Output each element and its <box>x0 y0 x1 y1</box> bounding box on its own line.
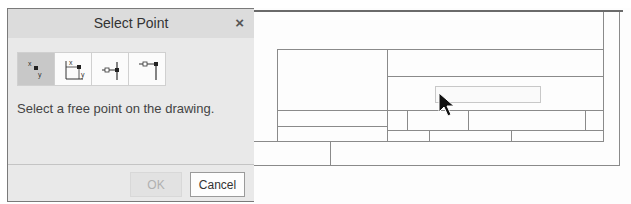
titleblock-row4 <box>387 130 604 131</box>
dialog-title: Select Point <box>8 15 254 31</box>
svg-text:y: y <box>81 71 85 79</box>
svg-text:x: x <box>69 59 73 66</box>
footer-divider <box>8 164 254 165</box>
tool-point-on-line-end[interactable] <box>128 52 166 86</box>
instruction-text: Select a free point on the drawing. <box>17 101 214 116</box>
ok-button[interactable]: OK <box>130 172 182 197</box>
cell-divider-d <box>429 130 430 142</box>
titleblock-row3 <box>277 126 388 127</box>
point-on-vertical-line-icon <box>92 53 130 87</box>
cancel-button[interactable]: Cancel <box>190 172 245 197</box>
titleblock-top <box>277 49 604 50</box>
dialog-title-bar[interactable]: Select Point × <box>8 9 254 38</box>
titleblock-divider <box>387 49 388 142</box>
titleblock-left <box>277 49 278 142</box>
titleblock-row1 <box>387 76 604 77</box>
cell-divider-f <box>330 141 331 165</box>
sheet-top-border <box>254 10 623 12</box>
tool-free-point[interactable]: x y <box>17 52 55 86</box>
titleblock-right <box>603 12 604 142</box>
cell-divider-e <box>511 130 512 142</box>
point-on-line-end-icon <box>129 53 167 87</box>
tool-absolute-coordinates[interactable]: x y <box>54 52 92 86</box>
cell-divider-b <box>468 110 469 130</box>
point-mode-toolbar: x y x y <box>17 52 165 86</box>
free-point-icon: x y <box>18 53 56 87</box>
tool-point-on-vertical[interactable] <box>91 52 129 86</box>
frame-right-outer <box>619 12 620 166</box>
cell-divider-a <box>407 110 408 130</box>
select-point-dialog: Select Point × x y x y <box>7 8 254 202</box>
absolute-coordinates-icon: x y <box>55 53 93 87</box>
svg-text:x: x <box>28 60 32 67</box>
cell-divider-c <box>585 110 586 130</box>
svg-text:y: y <box>38 71 42 79</box>
frame-bottom-outer <box>254 165 620 166</box>
mouse-cursor-icon <box>437 92 457 118</box>
close-icon[interactable]: × <box>235 14 244 31</box>
